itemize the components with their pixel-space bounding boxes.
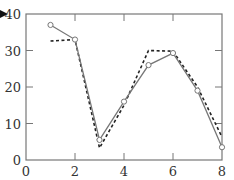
series-solid-markers xyxy=(48,22,225,149)
x-tick-label: 8 xyxy=(218,164,226,179)
data-point-marker xyxy=(72,37,77,42)
x-tick-label: 6 xyxy=(169,164,177,179)
data-point-marker xyxy=(121,99,126,104)
plot-frame xyxy=(26,14,222,160)
y-tick-label: 20 xyxy=(4,80,21,95)
data-point-marker xyxy=(97,137,102,142)
x-axis-labels: 02468 xyxy=(22,164,226,179)
x-tick-label: 0 xyxy=(22,164,30,179)
data-point-marker xyxy=(170,50,175,55)
series-solid-line xyxy=(51,25,223,147)
data-point-marker xyxy=(146,63,151,68)
axis-ticks xyxy=(26,14,222,160)
y-axis-labels: 010203040 xyxy=(4,7,21,168)
x-tick-label: 4 xyxy=(120,164,128,179)
y-tick-label: 10 xyxy=(4,117,21,132)
data-point-marker xyxy=(195,88,200,93)
y-tick-label: 0 xyxy=(13,153,21,168)
x-tick-label: 2 xyxy=(71,164,79,179)
y-tick-label: 30 xyxy=(4,44,21,59)
data-point-marker xyxy=(219,145,224,150)
data-point-marker xyxy=(48,22,53,27)
line-chart: 02468 010203040 xyxy=(0,0,234,180)
series-dashed-line xyxy=(51,40,223,148)
y-tick-label: 40 xyxy=(4,7,21,22)
